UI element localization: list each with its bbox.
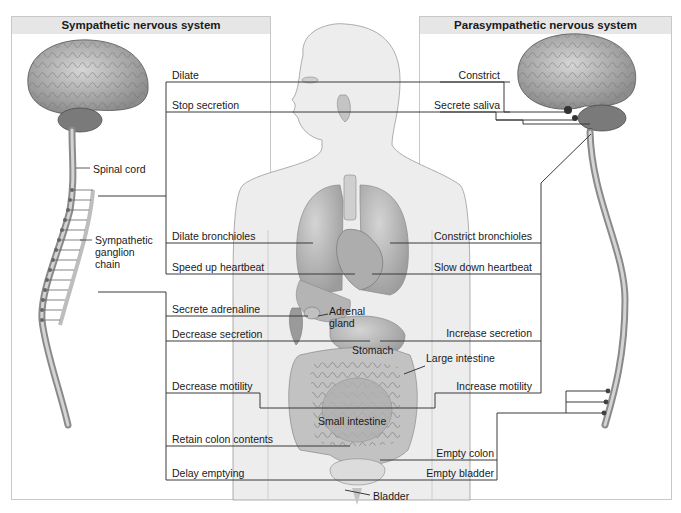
label-ganglion-line1: Sympathetic [95,234,153,246]
label-ganglion-line3: chain [95,258,120,270]
cerebellum-left [58,108,102,132]
symp-effect-speed-heartbeat: Speed up heartbeat [172,261,264,273]
para-effect-increase-secretion: Increase secretion [446,327,532,339]
para-effect-empty-colon: Empty colon [436,447,494,459]
para-effect-secrete-saliva: Secrete saliva [434,99,500,111]
label-spinal-cord: Spinal cord [93,163,146,175]
para-effect-empty-bladder: Empty bladder [426,467,494,479]
label-large-intestine: Large intestine [426,352,495,364]
label-adrenal-line1: Adrenal [329,305,365,317]
label-small-intestine: Small intestine [318,415,386,427]
para-effect-slow-heartbeat: Slow down heartbeat [434,261,532,273]
para-effect-constrict-bronchioles: Constrict bronchioles [434,230,532,242]
bladder [330,459,385,485]
symp-effect-delay-emptying: Delay emptying [172,467,244,479]
para-effect-increase-motility: Increase motility [456,380,532,392]
symp-effect-decrease-motility: Decrease motility [172,380,253,392]
symp-effect-secrete-adrenaline: Secrete adrenaline [172,303,260,315]
symp-effect-dilate: Dilate [172,69,199,81]
symp-effect-stop-secretion: Stop secretion [172,99,239,111]
symp-effect-dilate-bronchioles: Dilate bronchioles [172,230,255,242]
label-ganglion-line2: ganglion [95,246,135,258]
sympathetic-brain-spine [28,40,148,425]
trachea [344,175,356,220]
adrenal-gland [304,307,320,319]
para-effect-constrict: Constrict [459,69,500,81]
label-adrenal-line2: gland [329,317,355,329]
small-intestine [322,378,392,442]
label-stomach: Stomach [352,344,393,356]
symp-effect-decrease-secretion: Decrease secretion [172,328,262,340]
label-bladder: Bladder [373,490,409,502]
symp-effect-retain-colon: Retain colon contents [172,433,273,445]
parasympathetic-brain-spine [518,34,636,425]
cerebellum-right [578,105,626,131]
nucleus-dot [564,106,572,114]
